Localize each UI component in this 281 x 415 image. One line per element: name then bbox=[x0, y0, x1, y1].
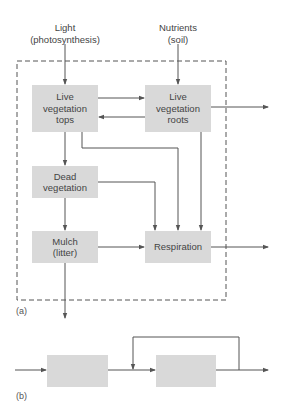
input-light-label: Light (photosynthesis) bbox=[20, 22, 110, 45]
part-a-label: (a) bbox=[16, 306, 27, 316]
box-b-second bbox=[156, 355, 216, 387]
box-mulch: Mulch (litter) bbox=[32, 231, 98, 263]
box-respiration: Respiration bbox=[145, 231, 211, 263]
box-live-vegetation-tops: Live vegetation tops bbox=[32, 85, 98, 132]
light-text: Light bbox=[20, 22, 110, 34]
soil-text: (soil) bbox=[140, 34, 216, 46]
input-nutrients-label: Nutrients (soil) bbox=[140, 22, 216, 45]
box-b-first bbox=[47, 355, 108, 387]
box-dead-vegetation: Dead vegetation bbox=[32, 166, 98, 198]
nutrients-text: Nutrients bbox=[140, 22, 216, 34]
box-live-vegetation-roots: Live vegetation roots bbox=[145, 85, 211, 132]
part-b-label: (b) bbox=[16, 391, 27, 401]
photosynthesis-text: (photosynthesis) bbox=[20, 34, 110, 46]
diagram-connectors bbox=[0, 0, 281, 415]
